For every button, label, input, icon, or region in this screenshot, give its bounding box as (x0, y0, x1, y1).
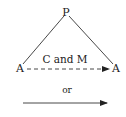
node-a-left: A (15, 62, 25, 75)
edge-label: C and M (42, 53, 87, 65)
or-text: or (62, 85, 72, 95)
node-a-right: A (111, 62, 121, 75)
triangle-diagram: P A A C and M or (0, 0, 126, 117)
node-p: P (62, 6, 70, 19)
